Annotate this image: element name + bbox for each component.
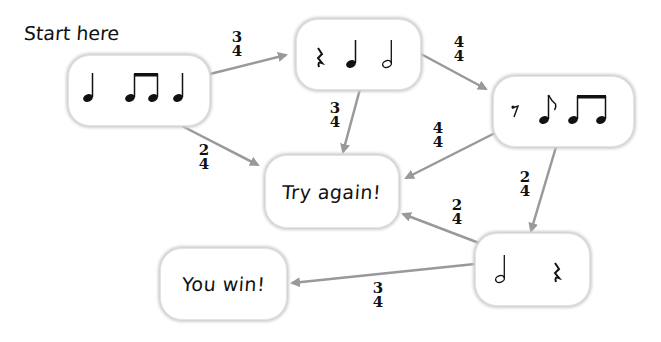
quarter-note-icon bbox=[82, 73, 94, 103]
time-signature-right-bottomright: 24 bbox=[518, 170, 532, 198]
eighth-rest-icon bbox=[511, 105, 518, 117]
time-signature-top-right: 44 bbox=[452, 35, 466, 63]
quarter-rest-icon bbox=[555, 263, 559, 282]
quarter-note-icon bbox=[172, 73, 184, 103]
beamed-eighth-notes-icon bbox=[124, 73, 159, 103]
beamed-eighth-notes-icon bbox=[567, 95, 607, 125]
notation-layer bbox=[0, 0, 661, 342]
half-note-icon bbox=[495, 255, 506, 284]
quarter-note-icon bbox=[345, 40, 357, 69]
time-signature-start-top: 34 bbox=[230, 30, 244, 58]
time-signature-bottomright-youwin: 34 bbox=[371, 281, 385, 309]
eighth-note-icon bbox=[538, 95, 556, 125]
time-signature-top-tryagain: 34 bbox=[328, 101, 342, 129]
quarter-rest-icon bbox=[318, 48, 322, 67]
time-signature-start-tryagain: 24 bbox=[197, 143, 211, 171]
time-signature-bottomright-tryagain: 24 bbox=[450, 198, 464, 226]
half-note-icon bbox=[382, 40, 393, 69]
time-signature-right-tryagain: 44 bbox=[431, 121, 445, 149]
